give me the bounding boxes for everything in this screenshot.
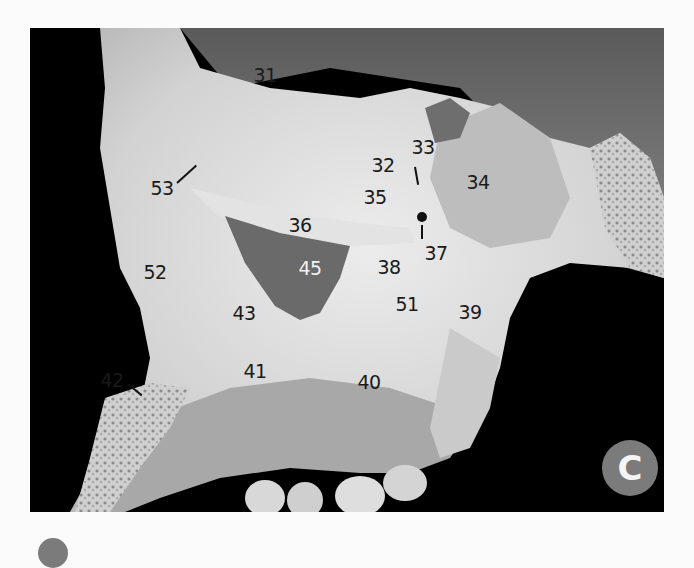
- anatomical-photo: 31 32 33 34 35 36 37 38 39 40 41 42 43 4…: [30, 28, 664, 512]
- label-32: 32: [371, 156, 394, 175]
- tooth: [383, 465, 427, 501]
- next-panel-badge: [38, 538, 68, 568]
- label-35: 35: [363, 188, 386, 207]
- label-31: 31: [253, 66, 276, 85]
- skull-illustration: [30, 28, 664, 512]
- label-33: 33: [411, 138, 434, 157]
- panel-letter-badge: C: [602, 440, 658, 496]
- foramen-marker: [417, 212, 427, 222]
- label-39: 39: [458, 303, 481, 322]
- label-34: 34: [466, 173, 489, 192]
- tooth: [245, 480, 285, 512]
- label-45: 45: [298, 259, 321, 278]
- label-52: 52: [143, 263, 166, 282]
- label-40: 40: [357, 373, 380, 392]
- label-51: 51: [395, 295, 418, 314]
- label-42: 42: [100, 371, 123, 390]
- label-36: 36: [288, 216, 311, 235]
- label-38: 38: [377, 258, 400, 277]
- leader-line-37: [421, 225, 423, 239]
- label-41: 41: [243, 362, 266, 381]
- tooth: [335, 476, 385, 512]
- label-37: 37: [424, 244, 447, 263]
- tooth: [287, 482, 323, 512]
- label-53: 53: [150, 179, 173, 198]
- label-43: 43: [232, 304, 255, 323]
